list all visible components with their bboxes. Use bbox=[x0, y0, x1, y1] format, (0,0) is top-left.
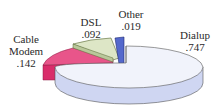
label-cable-modem: Cable Modem .142 bbox=[4, 33, 48, 69]
label-other-value: .019 bbox=[114, 20, 148, 32]
label-cable-name-2: Modem bbox=[4, 45, 48, 57]
label-dialup: Dialup .747 bbox=[176, 29, 214, 53]
label-dialup-value: .747 bbox=[176, 41, 214, 53]
label-dsl: DSL .092 bbox=[76, 16, 106, 40]
label-dsl-name: DSL bbox=[76, 16, 106, 28]
label-other: Other .019 bbox=[114, 8, 148, 32]
label-other-name: Other bbox=[114, 8, 148, 20]
label-dialup-name: Dialup bbox=[176, 29, 214, 41]
label-cable-name-1: Cable bbox=[4, 33, 48, 45]
label-dsl-value: .092 bbox=[76, 28, 106, 40]
label-cable-value: .142 bbox=[4, 57, 48, 69]
